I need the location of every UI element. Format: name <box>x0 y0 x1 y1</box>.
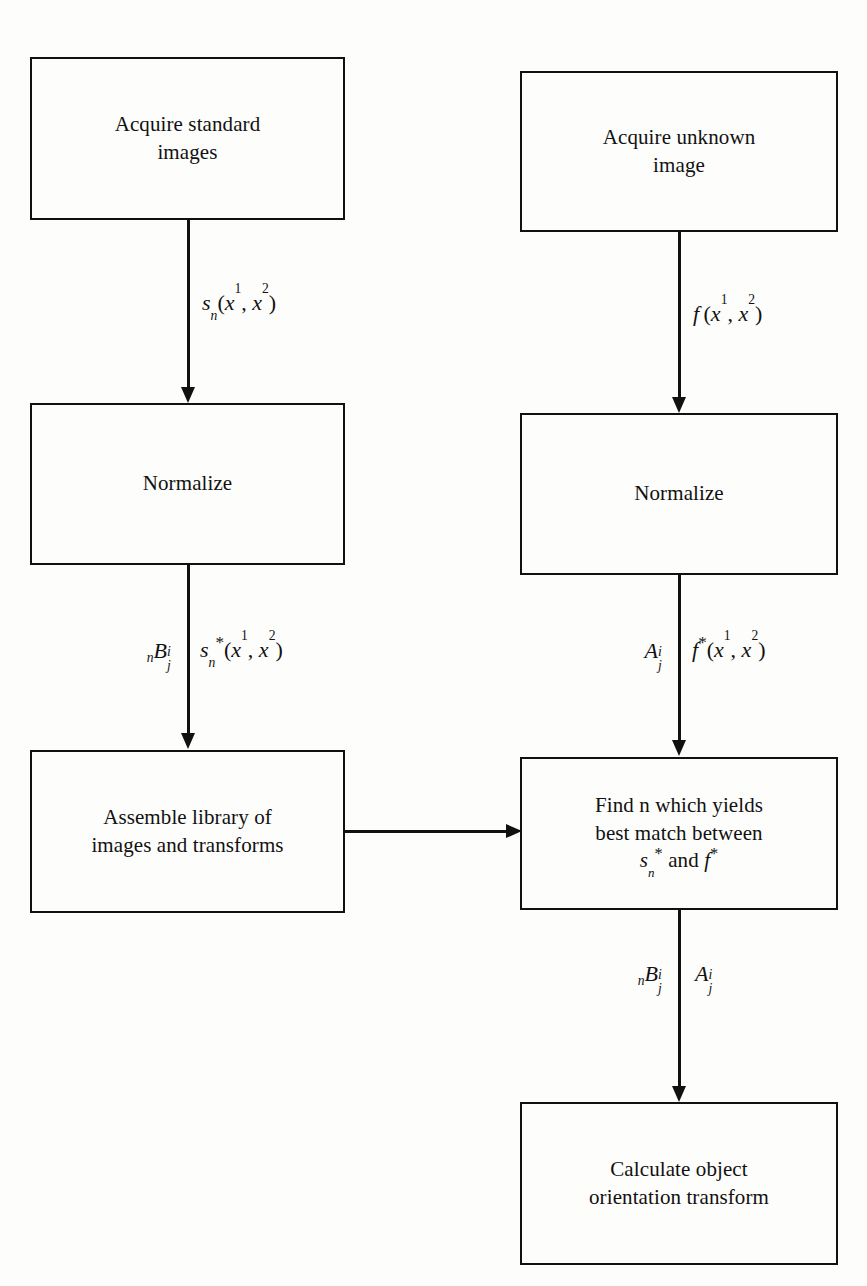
node-acquire-unknown-image[interactable]: Acquire unknown image <box>520 71 838 232</box>
node-label: Normalize <box>143 470 233 498</box>
edge-label-nBij-bottom: nBij <box>586 961 668 987</box>
node-normalize-left[interactable]: Normalize <box>30 403 345 565</box>
edge-label-s-star-n-x1-x2: sn*(x1, x2) <box>200 637 283 663</box>
edge-standard-to-normalize-line <box>187 220 190 388</box>
edge-standard-to-normalize-arrowhead <box>181 387 195 403</box>
edge-find-to-calculate-line <box>678 910 681 1087</box>
node-assemble-library[interactable]: Assemble library of images and transform… <box>30 750 345 913</box>
edge-normalize-to-find-arrowhead <box>672 740 686 756</box>
edge-unknown-to-normalize-line <box>678 232 681 398</box>
node-label: Calculate object orientation transform <box>589 1156 769 1211</box>
edge-label-Aij-bottom: Aij <box>695 961 719 987</box>
flowchart-canvas: Acquire standard images sn(x1, x2) Norma… <box>0 0 867 1286</box>
node-acquire-standard-images[interactable]: Acquire standard images <box>30 57 345 220</box>
node-label-multiline: Find n which yields best match between s… <box>595 792 763 875</box>
edge-label-f-x1-x2: f (x1, x2) <box>693 301 762 327</box>
node-label: Normalize <box>634 480 724 508</box>
edge-label-nBij-left: nBij <box>95 638 177 664</box>
node-label: Assemble library of images and transform… <box>91 804 283 859</box>
node-calculate-object-orientation[interactable]: Calculate object orientation transform <box>520 1102 838 1265</box>
find-line-3-math: sn* and f* <box>595 847 763 875</box>
node-find-best-match[interactable]: Find n which yields best match between s… <box>520 757 838 910</box>
find-line-2: best match between <box>595 820 763 848</box>
edge-normalize-to-library-line <box>187 565 190 734</box>
edge-label-Aij-left: Aij <box>596 638 668 664</box>
node-normalize-right[interactable]: Normalize <box>520 413 838 575</box>
edge-find-to-calculate-arrowhead <box>672 1086 686 1102</box>
edge-library-to-find-line <box>345 830 507 833</box>
edge-normalize-to-library-arrowhead <box>181 733 195 749</box>
node-label: Acquire unknown image <box>603 124 756 179</box>
node-label: Acquire standard images <box>115 111 261 166</box>
edge-unknown-to-normalize-arrowhead <box>672 397 686 413</box>
edge-normalize-to-find-line <box>678 575 681 741</box>
edge-label-s-n-x1-x2: sn(x1, x2) <box>202 290 276 316</box>
find-line-1: Find n which yields <box>595 792 763 820</box>
edge-label-f-star-x1-x2: f*(x1, x2) <box>692 637 766 663</box>
